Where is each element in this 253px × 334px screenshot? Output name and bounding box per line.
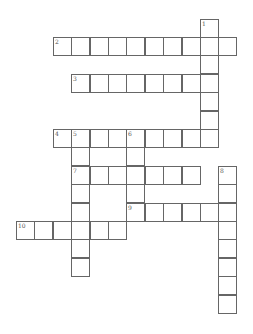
- crossword-cell[interactable]: [145, 37, 164, 56]
- crossword-cell[interactable]: [200, 55, 219, 74]
- crossword-cell[interactable]: [200, 111, 219, 130]
- crossword-cell[interactable]: [90, 166, 109, 185]
- crossword-cell[interactable]: [218, 239, 237, 258]
- crossword-cell[interactable]: [53, 221, 72, 240]
- crossword-cell[interactable]: 5: [71, 129, 90, 148]
- crossword-cell[interactable]: [71, 258, 90, 277]
- crossword-cell[interactable]: [90, 129, 109, 148]
- crossword-cell[interactable]: [218, 276, 237, 295]
- crossword-cell[interactable]: [182, 166, 201, 185]
- clue-number: 10: [18, 222, 26, 229]
- crossword-cell[interactable]: [182, 203, 201, 222]
- crossword-cell[interactable]: [126, 166, 145, 185]
- crossword-cell[interactable]: [218, 258, 237, 277]
- clue-number: 9: [128, 204, 132, 211]
- crossword-cell[interactable]: [218, 184, 237, 203]
- crossword-cell[interactable]: [90, 37, 109, 56]
- crossword-cell[interactable]: 1: [200, 19, 219, 38]
- crossword-cell[interactable]: [71, 147, 90, 166]
- crossword-cell[interactable]: [145, 203, 164, 222]
- crossword-cell[interactable]: 6: [126, 129, 145, 148]
- crossword-cell[interactable]: 8: [218, 166, 237, 185]
- crossword-cell[interactable]: [34, 221, 53, 240]
- clue-number: 3: [73, 75, 77, 82]
- crossword-cell[interactable]: [218, 37, 237, 56]
- crossword-cell[interactable]: [218, 295, 237, 314]
- crossword-cell[interactable]: [163, 166, 182, 185]
- crossword-cell[interactable]: [126, 184, 145, 203]
- crossword-cell[interactable]: [218, 203, 237, 222]
- crossword-cell[interactable]: 9: [126, 203, 145, 222]
- crossword-cell[interactable]: [71, 203, 90, 222]
- clue-number: 5: [73, 130, 77, 137]
- crossword-cell[interactable]: 7: [71, 166, 90, 185]
- crossword-cell[interactable]: [200, 92, 219, 111]
- clue-number: 7: [73, 167, 77, 174]
- crossword-cell[interactable]: 10: [16, 221, 35, 240]
- crossword-cell[interactable]: [200, 74, 219, 93]
- crossword-cell[interactable]: [71, 37, 90, 56]
- clue-number: 4: [55, 130, 59, 137]
- crossword-cell[interactable]: [71, 239, 90, 258]
- clue-number: 6: [128, 130, 132, 137]
- crossword-cell[interactable]: [200, 37, 219, 56]
- crossword-cell[interactable]: 3: [71, 74, 90, 93]
- crossword-cell[interactable]: [163, 129, 182, 148]
- crossword-cell[interactable]: [108, 129, 127, 148]
- crossword-cell[interactable]: [163, 37, 182, 56]
- crossword-cell[interactable]: [163, 203, 182, 222]
- clue-number: 8: [220, 167, 224, 174]
- crossword-cell[interactable]: [200, 203, 219, 222]
- crossword-cell[interactable]: [71, 184, 90, 203]
- crossword-cell[interactable]: [71, 221, 90, 240]
- crossword-cell[interactable]: [145, 166, 164, 185]
- crossword-cell[interactable]: [182, 74, 201, 93]
- crossword-cell[interactable]: [108, 221, 127, 240]
- crossword-cell[interactable]: [182, 129, 201, 148]
- crossword-cell[interactable]: [145, 74, 164, 93]
- crossword-cell[interactable]: [90, 74, 109, 93]
- crossword-cell[interactable]: 4: [53, 129, 72, 148]
- crossword-cell[interactable]: [200, 129, 219, 148]
- crossword-cell[interactable]: [126, 37, 145, 56]
- clue-number: 2: [55, 38, 59, 45]
- crossword-cell[interactable]: [108, 166, 127, 185]
- crossword-cell[interactable]: [182, 37, 201, 56]
- crossword-cell[interactable]: [108, 37, 127, 56]
- crossword-cell[interactable]: [90, 221, 109, 240]
- crossword-cell[interactable]: [108, 74, 127, 93]
- clue-number: 1: [202, 20, 206, 27]
- crossword-cell[interactable]: [163, 74, 182, 93]
- crossword-cell[interactable]: [126, 74, 145, 93]
- crossword-cell[interactable]: 2: [53, 37, 72, 56]
- crossword-cell[interactable]: [126, 147, 145, 166]
- crossword-cell[interactable]: [218, 221, 237, 240]
- crossword-cell[interactable]: [145, 129, 164, 148]
